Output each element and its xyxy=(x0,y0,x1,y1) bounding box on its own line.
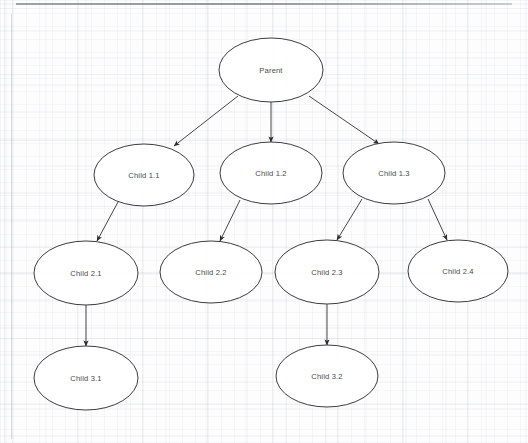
node-label-parent: Parent xyxy=(259,66,283,75)
node-label-child3_1: Child 3.1 xyxy=(70,374,101,383)
node-child2_1[interactable]: Child 2.1 xyxy=(34,241,138,305)
edge-parent-to-child1_1 xyxy=(174,96,238,146)
node-label-child1_1: Child 1.1 xyxy=(128,171,159,180)
node-child3_2[interactable]: Child 3.2 xyxy=(276,345,378,407)
edge-layer xyxy=(86,96,447,346)
node-parent[interactable]: Parent xyxy=(219,38,323,102)
edge-child1_3-to-child2_4 xyxy=(428,199,447,240)
node-layer: ParentChild 1.1Child 1.2Child 1.3Child 2… xyxy=(34,38,508,410)
node-label-child2_3: Child 2.3 xyxy=(311,268,342,277)
node-child1_2[interactable]: Child 1.2 xyxy=(220,142,322,204)
node-child2_3[interactable]: Child 2.3 xyxy=(275,240,379,304)
edge-parent-to-child1_3 xyxy=(309,96,379,144)
edge-child1_1-to-child2_1 xyxy=(97,202,118,241)
node-child1_3[interactable]: Child 1.3 xyxy=(343,142,445,204)
edge-child1_2-to-child2_2 xyxy=(220,200,240,241)
node-label-child3_2: Child 3.2 xyxy=(311,372,342,381)
node-child1_1[interactable]: Child 1.1 xyxy=(94,144,194,206)
node-label-child2_2: Child 2.2 xyxy=(195,268,226,277)
node-label-child2_1: Child 2.1 xyxy=(70,269,101,278)
node-child2_4[interactable]: Child 2.4 xyxy=(408,240,508,302)
node-child2_2[interactable]: Child 2.2 xyxy=(160,241,262,303)
node-label-child2_4: Child 2.4 xyxy=(442,267,473,276)
diagram-canvas: ParentChild 1.1Child 1.2Child 1.3Child 2… xyxy=(0,0,528,443)
node-label-child1_3: Child 1.3 xyxy=(378,169,409,178)
edge-child1_3-to-child2_3 xyxy=(337,199,362,240)
tree-diagram: ParentChild 1.1Child 1.2Child 1.3Child 2… xyxy=(0,0,528,443)
node-child3_1[interactable]: Child 3.1 xyxy=(34,346,138,410)
node-label-child1_2: Child 1.2 xyxy=(255,169,286,178)
